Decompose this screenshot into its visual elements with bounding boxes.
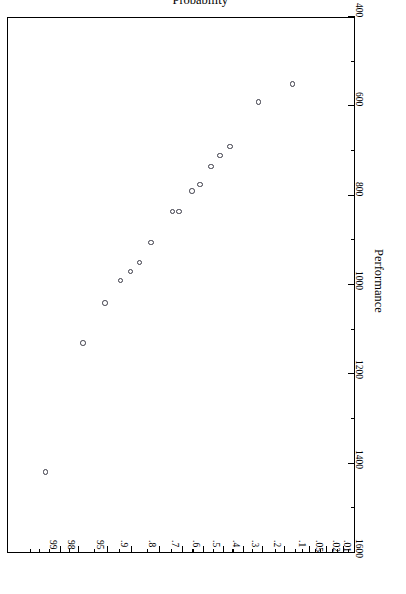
data-point: [197, 182, 203, 188]
performance-axis-title: Performance: [371, 249, 386, 313]
probability-axis-tick-label: .05: [313, 540, 323, 552]
performance-axis-tick-label: 1000: [354, 271, 364, 290]
probability-axis-tick-label: .4: [230, 540, 240, 547]
normal-probability-plot: Probability Performance .01.02.05.1.2.3.…: [0, 0, 406, 594]
data-point: [102, 300, 108, 306]
data-point: [256, 99, 262, 105]
probability-axis-tick-label: 99: [47, 540, 57, 550]
probability-axis-tick-label: .7: [170, 540, 180, 547]
probability-axis-tick-label: 98: [65, 540, 75, 550]
probability-axis-tick-label: .9: [119, 540, 129, 547]
performance-axis-tick-label: 1200: [354, 360, 364, 379]
performance-axis-tick-label: 1400: [354, 450, 364, 469]
probability-axis-tick-label: .02: [330, 540, 340, 552]
data-point: [43, 469, 49, 475]
data-point: [190, 188, 196, 194]
data-point: [217, 153, 223, 159]
probability-axis-tick-label: 95: [94, 540, 104, 550]
performance-axis-tick-label: 400: [354, 3, 364, 17]
data-point: [80, 340, 86, 346]
data-point: [170, 209, 176, 215]
data-point: [148, 240, 154, 246]
performance-axis-tick-label: 800: [354, 182, 364, 196]
data-point: [137, 260, 143, 266]
scatter-data-layer: [7, 17, 355, 553]
performance-axis-tick-label: 600: [354, 92, 364, 106]
data-point: [290, 81, 296, 87]
data-point: [118, 278, 124, 284]
probability-axis-tick-label: .3: [250, 540, 260, 547]
figure-rotation-wrapper: Probability Performance .01.02.05.1.2.3.…: [0, 0, 406, 594]
data-point: [208, 164, 214, 170]
data-point: [176, 209, 182, 215]
probability-axis-tick-label: .8: [147, 540, 157, 547]
data-point: [227, 144, 233, 150]
probability-axis-tick-label: .1: [296, 540, 306, 547]
probability-axis-tick-label: .2: [271, 540, 281, 547]
probability-axis-tick-label: .01: [342, 540, 352, 552]
probability-axis-title: Probability: [172, 0, 228, 8]
performance-axis-tick-label: 1600: [354, 539, 364, 558]
data-point: [128, 269, 134, 275]
probability-axis-tick-label: .6: [190, 540, 200, 547]
probability-axis-tick-label: .5: [210, 540, 220, 547]
